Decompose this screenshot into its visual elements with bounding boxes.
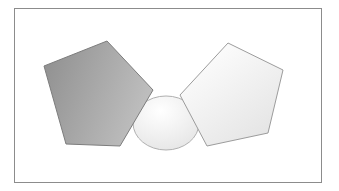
figure-root [0,0,339,191]
shapes-figure-canvas [0,0,339,191]
